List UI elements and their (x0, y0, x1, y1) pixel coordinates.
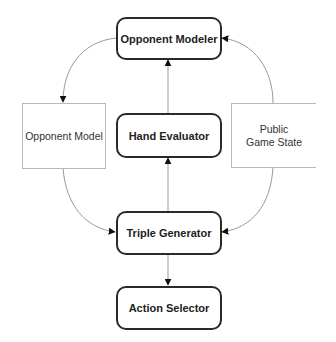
edge-modeler-to-model (63, 38, 116, 102)
node-public-game-state: Public Game State (231, 103, 316, 168)
node-label: Public Game State (244, 123, 304, 149)
node-action-selector: Action Selector (116, 286, 222, 330)
edge-gamestate-to-generator (222, 167, 273, 232)
node-opponent-model: Opponent Model (22, 103, 106, 169)
node-triple-generator: Triple Generator (116, 211, 222, 255)
node-label: Action Selector (129, 302, 210, 314)
edge-model-to-generator (63, 168, 115, 232)
node-label: Hand Evaluator (129, 130, 210, 142)
node-label: Opponent Model (25, 130, 103, 143)
node-label: Triple Generator (127, 227, 212, 239)
node-hand-evaluator: Hand Evaluator (116, 113, 222, 158)
node-label: Opponent Modeler (120, 33, 217, 45)
edge-gamestate-to-modeler (222, 38, 273, 103)
node-opponent-modeler: Opponent Modeler (116, 17, 222, 60)
